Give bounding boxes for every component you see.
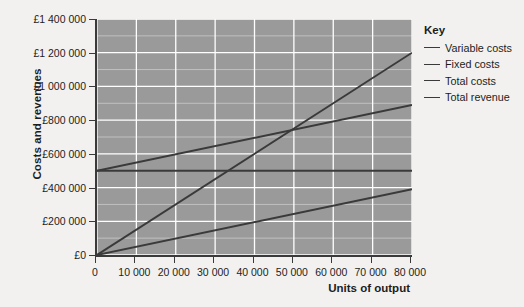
x-tick-label: 80 000 bbox=[375, 266, 445, 278]
x-tick-mark bbox=[253, 257, 254, 263]
legend-label-variable-costs: Variable costs bbox=[445, 42, 512, 54]
y-tick-label: £1 400 000 bbox=[26, 13, 86, 25]
y-tick-label: £0 bbox=[26, 249, 86, 261]
legend-title: Key bbox=[424, 24, 524, 36]
legend-label-fixed-costs: Fixed costs bbox=[445, 58, 500, 70]
y-tick-label: £600 000 bbox=[26, 148, 86, 160]
plot-area bbox=[95, 19, 412, 257]
x-tick-mark bbox=[174, 257, 175, 263]
y-tick-label: £200 000 bbox=[26, 215, 86, 227]
legend-label-total-revenue: Total revenue bbox=[445, 91, 510, 103]
y-tick-mark bbox=[89, 19, 95, 20]
plot-svg bbox=[97, 19, 412, 255]
legend-item-fixed-costs: Fixed costs bbox=[424, 58, 524, 71]
y-tick-label: £800 000 bbox=[26, 114, 86, 126]
x-tick-mark bbox=[213, 257, 214, 263]
x-axis-title: Units of output bbox=[250, 282, 410, 294]
legend-line-swatch-fixed-costs bbox=[424, 64, 440, 65]
y-tick-mark bbox=[89, 154, 95, 155]
legend-item-variable-costs: Variable costs bbox=[424, 41, 524, 54]
chart-legend: Key Variable costs Fixed costs Total cos… bbox=[424, 24, 524, 107]
x-tick-mark bbox=[331, 257, 332, 263]
y-tick-label: £1 200 000 bbox=[26, 47, 86, 59]
legend-item-total-costs: Total costs bbox=[424, 74, 524, 87]
y-tick-label: £1 000 000 bbox=[26, 80, 86, 92]
x-tick-mark bbox=[371, 257, 372, 263]
legend-line-swatch-variable-costs bbox=[424, 47, 440, 48]
legend-item-total-revenue: Total revenue bbox=[424, 91, 524, 104]
legend-line-swatch-total-revenue bbox=[424, 97, 440, 98]
x-tick-mark bbox=[292, 257, 293, 263]
y-tick-mark bbox=[89, 255, 95, 256]
y-tick-label: £400 000 bbox=[26, 182, 86, 194]
x-tick-mark bbox=[410, 257, 411, 263]
x-tick-mark bbox=[95, 257, 96, 263]
y-tick-mark bbox=[89, 188, 95, 189]
x-tick-mark bbox=[134, 257, 135, 263]
y-tick-mark bbox=[89, 86, 95, 87]
legend-line-swatch-total-costs bbox=[424, 80, 440, 81]
chart-figure: Costs and revenues bbox=[0, 0, 524, 307]
y-tick-mark bbox=[89, 53, 95, 54]
y-tick-mark bbox=[89, 221, 95, 222]
legend-label-total-costs: Total costs bbox=[445, 75, 496, 87]
y-tick-mark bbox=[89, 120, 95, 121]
